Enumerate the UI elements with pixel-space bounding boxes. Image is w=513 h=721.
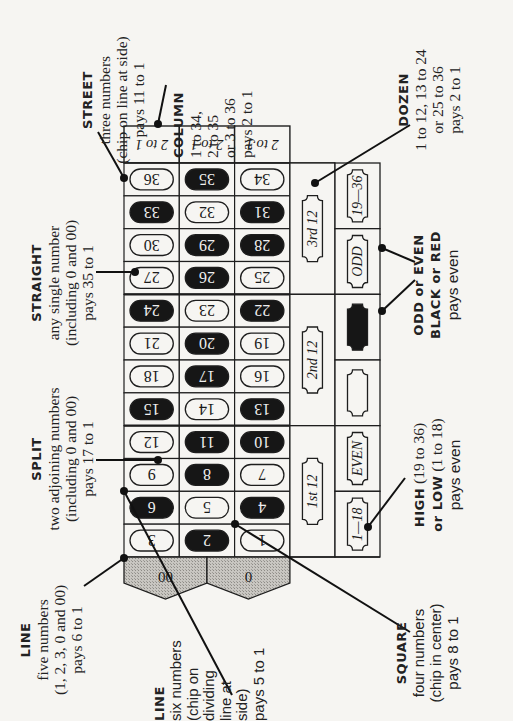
pocket-number: 14 <box>199 401 215 418</box>
pocket-number: 4 <box>258 499 266 516</box>
pocket-number: 33 <box>144 204 160 221</box>
pocket-number: 17 <box>199 368 215 385</box>
pocket-number: 13 <box>254 401 270 418</box>
square-label: SQUARE four numbers (chip in center) pay… <box>393 588 463 718</box>
even-money-label: EVEN <box>350 440 365 477</box>
straight-label: STRAIGHT any single number (including 0 … <box>28 198 100 368</box>
dozen-label: 2nd 12 <box>305 341 320 380</box>
black-chip-dot <box>378 307 386 315</box>
pocket-number: 18 <box>144 368 160 385</box>
street-label: STREET three numbers (chip on line at si… <box>79 15 159 185</box>
even-money-label: 19—36 <box>350 176 365 216</box>
pocket-number: 19 <box>254 335 270 352</box>
dozen-chip-dot <box>311 179 319 187</box>
pocket-number: 8 <box>203 466 211 483</box>
even-money-label: ODD <box>350 246 365 276</box>
pocket-number: 32 <box>199 204 215 221</box>
even-money-label: 1—18 <box>350 507 365 540</box>
pocket-number: 30 <box>144 237 160 254</box>
split-chip-dot <box>154 456 162 464</box>
pocket-number: 20 <box>199 335 215 352</box>
column-label: COLUMN 1 to 34, 2 to 35 or 3 to 36 pays … <box>170 28 260 158</box>
low-chip-dot <box>364 523 372 531</box>
betting-grid: 2 to 12 to 12 to 13635343332313029282726… <box>124 126 380 599</box>
straight-chip-dot <box>131 268 139 276</box>
pocket-number: 6 <box>148 499 156 516</box>
dozen-label: 3rd 12 <box>305 210 320 247</box>
pocket-number: 7 <box>258 466 266 483</box>
split-label: SPLIT two adjoining numbers (including 0… <box>28 374 100 544</box>
black-bet-plaque <box>348 304 368 350</box>
odd-even-black-red-label: ODD or EVEN BLACK or RED pays even <box>410 220 470 350</box>
line-six-label: LINE six numbers (chip on dividing line … <box>151 611 259 721</box>
zero-number: 0 <box>245 569 253 585</box>
pocket-number: 34 <box>254 171 270 188</box>
high-low-label: HIGH (19 to 36) or LOW (1 to 18) pays ev… <box>410 400 470 550</box>
pocket-number: 9 <box>148 466 156 483</box>
pocket-number: 23 <box>199 302 215 319</box>
pocket-number: 26 <box>199 269 215 286</box>
red-bet-plaque <box>348 370 368 416</box>
column-pointer <box>158 85 166 124</box>
pocket-number: 10 <box>254 434 270 451</box>
pocket-number: 16 <box>254 368 270 385</box>
line-five-label: LINE five numbers (1, 2, 3, 0 and 00) pa… <box>17 565 89 715</box>
line-six-chip-dot <box>120 487 128 495</box>
pocket-number: 24 <box>144 302 160 319</box>
odd-chip-dot <box>378 244 386 252</box>
pocket-number: 22 <box>254 302 270 319</box>
pocket-number: 21 <box>144 335 160 352</box>
square-chip-dot <box>231 520 239 528</box>
pocket-number: 35 <box>199 171 215 188</box>
pocket-number: 11 <box>199 434 214 451</box>
dozen-label: DOZEN 1 to 12, 13 to 24 or 25 to 36 pays… <box>395 25 475 175</box>
dozen-label: 1st 12 <box>305 474 320 508</box>
pocket-number: 2 <box>203 532 211 549</box>
pocket-number: 29 <box>199 237 215 254</box>
pocket-number: 28 <box>254 237 270 254</box>
pocket-number: 12 <box>144 434 160 451</box>
line-five-chip-dot <box>120 554 128 562</box>
line-five-pointer <box>84 558 124 586</box>
pocket-number: 31 <box>254 204 270 221</box>
pocket-number: 15 <box>144 401 160 418</box>
pocket-number: 25 <box>254 269 270 286</box>
pocket-number: 5 <box>203 499 211 516</box>
pocket-number: 27 <box>144 269 160 286</box>
